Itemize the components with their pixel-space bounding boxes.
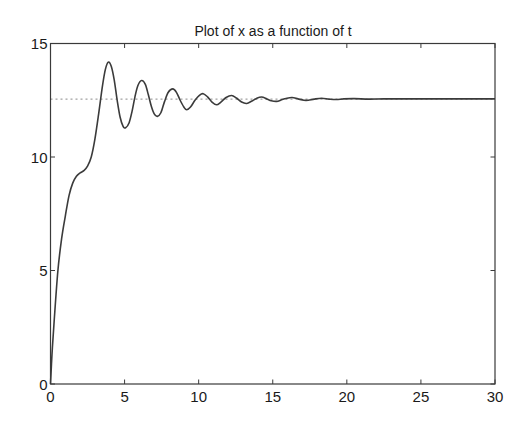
axis-ticks <box>51 44 496 385</box>
chart-title: Plot of x as a function of t <box>194 23 351 39</box>
x-tick-label: 5 <box>120 388 128 405</box>
plot-frame <box>51 44 496 385</box>
x-tick-label: 30 <box>487 388 504 405</box>
line-chart: Plot of x as a function of t 0 5 10 15 2… <box>0 0 527 423</box>
y-tick-label: 5 <box>39 262 47 279</box>
x-tick-label: 25 <box>413 388 430 405</box>
y-axis-tick-labels: 0 5 10 15 <box>31 35 48 393</box>
y-tick-label: 10 <box>31 149 48 166</box>
x-tick-label: 10 <box>190 388 207 405</box>
y-tick-label: 0 <box>39 376 47 393</box>
x-tick-label: 0 <box>46 388 54 405</box>
curve-line <box>51 62 496 384</box>
x-tick-label: 20 <box>338 388 355 405</box>
data-series-x <box>51 62 496 384</box>
x-tick-label: 15 <box>264 388 281 405</box>
x-axis-tick-labels: 0 5 10 15 20 25 30 <box>46 388 503 405</box>
y-tick-label: 15 <box>31 35 48 52</box>
